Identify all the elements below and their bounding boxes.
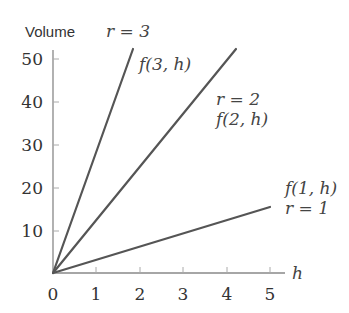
annotation-f1: f(1, h)	[283, 178, 337, 198]
x-tick-labels: 0 1 2 3 4 5	[48, 284, 276, 304]
x-ticks	[96, 267, 270, 273]
x-tick-2: 2	[135, 284, 146, 304]
x-tick-3: 3	[178, 284, 189, 304]
y-tick-30: 30	[21, 135, 43, 155]
y-tick-40: 40	[21, 92, 43, 112]
x-axis-label: h	[292, 263, 303, 283]
y-tick-labels: 10 20 30 40 50	[21, 49, 43, 241]
x-tick-4: 4	[222, 284, 233, 304]
annotation-r2: r = 2	[216, 89, 260, 109]
series-r2-line	[53, 49, 236, 273]
chart: 10 20 30 40 50 0 1 2 3 4 5 Volume h r = …	[0, 0, 349, 313]
annotation-r3: r = 3	[106, 21, 150, 41]
y-ticks	[53, 59, 59, 231]
y-axis-label: Volume	[25, 23, 75, 40]
y-tick-20: 20	[21, 178, 43, 198]
annotation-f3: f(3, h)	[137, 54, 191, 74]
series-r3-line	[53, 49, 133, 273]
y-tick-50: 50	[21, 49, 43, 69]
x-tick-5: 5	[265, 284, 276, 304]
annotation-r1: r = 1	[285, 198, 329, 218]
annotation-f2: f(2, h)	[214, 109, 268, 129]
series-r1-line	[53, 207, 270, 273]
x-tick-0: 0	[48, 284, 59, 304]
x-tick-1: 1	[91, 284, 102, 304]
y-tick-10: 10	[21, 221, 43, 241]
